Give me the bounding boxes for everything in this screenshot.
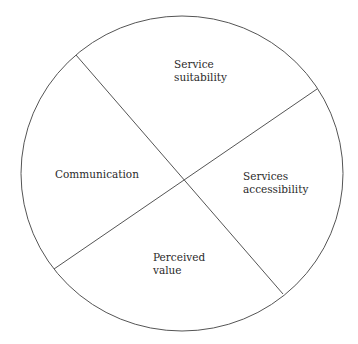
segment-label-communication: Communication: [55, 168, 139, 181]
segment-label-service-suitability: Service suitability: [174, 58, 227, 84]
label-line: Communication: [55, 168, 139, 181]
label-line: Perceived: [153, 251, 205, 264]
label-line: Service: [174, 58, 227, 71]
label-line: accessibility: [243, 183, 308, 196]
label-line: suitability: [174, 71, 227, 84]
label-line: Services: [243, 170, 308, 183]
segment-label-services-accessibility: Services accessibility: [243, 170, 308, 196]
label-line: value: [153, 264, 205, 277]
segment-label-perceived-value: Perceived value: [153, 251, 205, 277]
